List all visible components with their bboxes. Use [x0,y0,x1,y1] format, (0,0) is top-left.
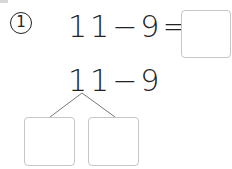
split-right-box[interactable] [88,117,139,166]
split-left-box[interactable] [24,117,75,166]
